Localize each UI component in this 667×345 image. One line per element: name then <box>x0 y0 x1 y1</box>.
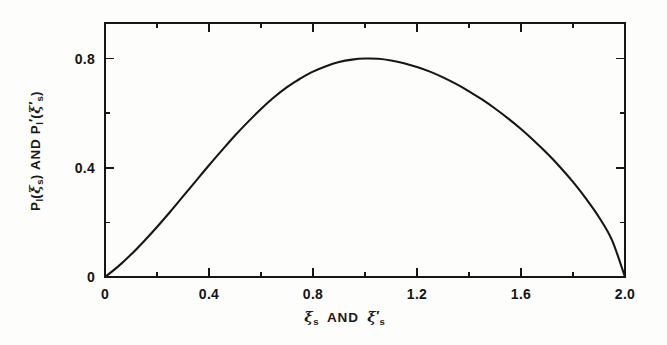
y-tick-label: 0.8 <box>75 51 95 67</box>
x-tick-label: 0 <box>101 286 109 302</box>
y-axis-xi-subscript: s <box>33 179 44 184</box>
y-axis-open-paren-2: ( <box>28 114 43 119</box>
x-tick-label: 1.2 <box>407 286 427 302</box>
y-axis-xi-primed-subscript: s <box>33 96 44 101</box>
y-axis-open-paren: ( <box>28 194 43 199</box>
x-axis-xi-symbol: ξ <box>304 308 313 325</box>
y-axis-p-subscript: l <box>33 199 44 202</box>
x-tick-label: 1.6 <box>511 286 531 302</box>
y-axis-label: Pl(ξs) AND Pl′(ξ′s) <box>26 91 45 211</box>
x-axis-label: ξs AND ξ′s <box>0 308 667 327</box>
x-tick-label: 2.0 <box>615 286 635 302</box>
y-axis-xi-symbol-primed: ξ <box>26 105 43 114</box>
figure-panel: 00.40.81.21.62.0 00.40.8 ξs AND ξ′s Pl(ξ… <box>0 0 667 345</box>
y-axis-close-paren-2: ) <box>28 91 43 96</box>
y-axis-xi-prime-mark: ′ <box>26 101 41 104</box>
axis-frame <box>105 23 625 277</box>
y-axis-label-container: Pl(ξs) AND Pl′(ξ′s) <box>24 21 46 281</box>
y-axis-p-primed-subscript: l <box>33 122 44 125</box>
y-axis-and-word: AND <box>28 138 43 170</box>
y-axis-p-prime-mark: ′ <box>26 119 41 122</box>
x-axis-xi-symbol-primed: ξ <box>367 308 376 325</box>
y-axis-xi-symbol: ξ <box>26 185 43 194</box>
x-axis-xi-primed-subscript: s <box>380 316 385 327</box>
axis-ticks <box>105 23 625 277</box>
x-axis-and-word: AND <box>327 310 359 325</box>
x-axis-xi-subscript: s <box>313 316 318 327</box>
y-tick-label: 0.4 <box>75 160 95 176</box>
x-tick-label: 0.4 <box>199 286 219 302</box>
y-tick-label: 0 <box>87 269 95 285</box>
y-axis-close-paren: ) <box>28 174 43 179</box>
data-curve <box>105 58 625 277</box>
y-axis-p-symbol-primed: P <box>28 125 43 135</box>
x-tick-label: 0.8 <box>303 286 323 302</box>
y-axis-p-symbol: P <box>28 201 43 211</box>
